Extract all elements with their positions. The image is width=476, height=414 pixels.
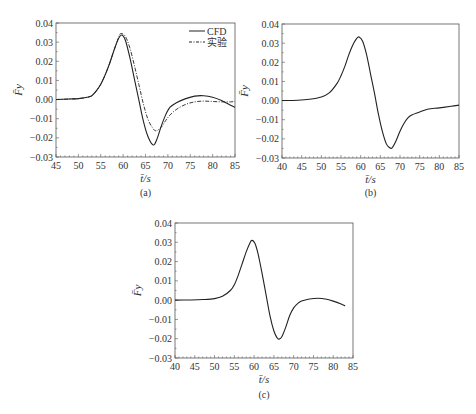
x-tick-label: 55 (229, 361, 239, 372)
x-tick-label: 65 (375, 161, 385, 172)
chart-panel-a: 4550556065707580850.040.030.020.010.00−0… (12, 18, 240, 200)
y-tick-label: 0.03 (155, 237, 173, 248)
x-tick-label: 75 (185, 160, 195, 171)
y-tick-label: 0.02 (36, 56, 54, 67)
x-tick-label: 55 (96, 160, 106, 171)
y-tick-label: 0.00 (155, 295, 173, 306)
x-tick-label: 60 (356, 161, 366, 172)
y-tick-label: −0.02 (149, 333, 172, 344)
x-tick-label: 50 (210, 361, 220, 372)
y-tick-label: −0.02 (256, 133, 279, 144)
plot-frame (282, 24, 459, 158)
y-tick-label: 0.00 (262, 95, 280, 106)
y-tick-label: 0.03 (36, 37, 54, 48)
x-tick-label: 45 (297, 161, 307, 172)
x-tick-label: 50 (316, 161, 326, 172)
y-tick-label: −0.03 (30, 152, 53, 163)
x-tick-label: 80 (208, 160, 218, 171)
y-axis-title: F̄y (12, 84, 24, 97)
legend-label: CFD (207, 26, 226, 37)
y-tick-label: 0.01 (262, 76, 280, 87)
x-tick-label: 80 (434, 161, 444, 172)
y-tick-label: −0.01 (256, 114, 279, 125)
x-tick-label: 60 (118, 160, 128, 171)
y-tick-label: 0.04 (155, 218, 173, 229)
panel-caption: (a) (140, 187, 151, 199)
y-tick-label: 0.02 (262, 57, 280, 68)
figure: 4550556065707580850.040.030.020.010.00−0… (0, 0, 476, 414)
y-tick-label: 0.02 (155, 256, 173, 267)
x-axis-title: t̄/s (365, 173, 375, 185)
y-tick-label: −0.01 (149, 314, 172, 325)
series-line-cfd (56, 35, 235, 145)
x-tick-label: 85 (348, 361, 358, 372)
x-tick-label: 70 (163, 160, 173, 171)
x-tick-label: 55 (336, 161, 346, 172)
series-line-cfd (175, 240, 345, 339)
x-tick-label: 80 (328, 361, 338, 372)
y-tick-label: −0.02 (30, 132, 53, 143)
x-tick-label: 70 (289, 361, 299, 372)
x-tick-label: 75 (415, 161, 425, 172)
x-tick-label: 60 (249, 361, 259, 372)
panel-caption: (b) (365, 187, 377, 199)
legend: CFD实验 (189, 26, 227, 48)
x-tick-label: 50 (73, 160, 83, 171)
x-tick-label: 75 (308, 361, 318, 372)
x-axis-title: t̄/s (259, 373, 269, 385)
y-tick-label: 0.01 (155, 275, 173, 286)
y-axis-title: F̄y (238, 85, 250, 98)
y-tick-label: −0.03 (256, 153, 279, 164)
y-tick-label: 0.03 (262, 38, 280, 49)
y-tick-label: −0.03 (149, 353, 172, 364)
y-tick-label: −0.01 (30, 113, 53, 124)
y-tick-label: 0.04 (36, 18, 54, 29)
x-tick-label: 65 (141, 160, 151, 171)
panel-caption: (c) (258, 389, 269, 401)
x-tick-label: 85 (230, 160, 240, 171)
y-tick-label: 0.01 (36, 75, 54, 86)
x-tick-label: 70 (395, 161, 405, 172)
y-tick-label: 0.04 (262, 19, 280, 30)
x-tick-label: 85 (454, 161, 464, 172)
x-tick-label: 45 (190, 361, 200, 372)
chart-panel-b: 404550556065707580850.040.030.020.010.00… (238, 19, 464, 200)
x-axis-title: t̄/s (140, 172, 150, 184)
y-tick-label: 0.00 (36, 94, 54, 105)
plot-frame (175, 223, 353, 358)
legend-label: 实验 (207, 36, 227, 48)
y-axis-title: F̄y (131, 285, 143, 298)
series-line-experiment (56, 34, 235, 131)
x-tick-label: 65 (269, 361, 279, 372)
series-line-cfd (282, 37, 459, 149)
chart-panel-c: 404550556065707580850.040.030.020.010.00… (131, 218, 358, 402)
